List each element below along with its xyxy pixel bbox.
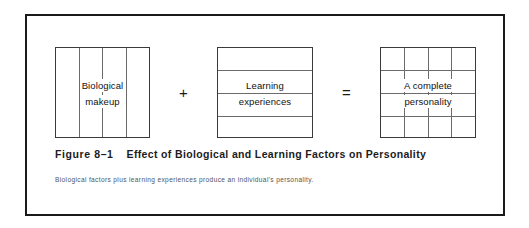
box-biological-label-line2: makeup	[56, 95, 149, 108]
figure-number: Figure 8–1	[55, 148, 114, 160]
grid-hline	[218, 93, 312, 94]
grid-hline	[218, 116, 312, 117]
grid-vline	[79, 48, 80, 137]
diagram-row: Biological makeup + Learning experiences…	[27, 16, 503, 134]
operator-equals: =	[313, 47, 380, 138]
box-learning-label-line1: Learning	[218, 79, 312, 92]
box-biological-makeup: Biological makeup	[55, 47, 150, 138]
equals-icon: =	[342, 84, 351, 101]
box-personality-label-line1: A complete	[381, 79, 475, 92]
grid-hline	[381, 70, 475, 71]
box-learning-label-line2: experiences	[218, 95, 312, 108]
grid-vline	[126, 48, 127, 137]
plus-icon: +	[179, 84, 188, 101]
operator-plus: +	[150, 47, 217, 138]
box-biological-label-line1: Biological	[56, 79, 149, 92]
box-learning-experiences: Learning experiences	[217, 47, 313, 138]
figure-canvas: Biological makeup + Learning experiences…	[0, 0, 529, 228]
figure-caption-description: Biological factors plus learning experie…	[55, 176, 314, 183]
grid-hline	[218, 70, 312, 71]
grid-vline	[102, 48, 103, 137]
grid-hline	[381, 93, 475, 94]
figure-frame: Biological makeup + Learning experiences…	[25, 14, 505, 216]
grid-hline	[381, 116, 475, 117]
box-personality-label-line2: personality	[381, 95, 475, 108]
box-complete-personality: A complete personality	[380, 47, 476, 138]
figure-caption-title: Figure 8–1Effect of Biological and Learn…	[55, 148, 426, 160]
figure-title-text: Effect of Biological and Learning Factor…	[127, 148, 427, 160]
